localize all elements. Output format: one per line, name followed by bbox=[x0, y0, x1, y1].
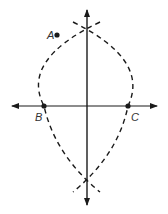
label-c: C bbox=[131, 111, 139, 123]
label-b: B bbox=[35, 111, 42, 123]
construction-diagram: A B C bbox=[0, 0, 168, 214]
label-a: A bbox=[46, 29, 54, 41]
point-c bbox=[125, 103, 130, 108]
point-b bbox=[41, 103, 46, 108]
point-a bbox=[54, 32, 59, 37]
left-arc bbox=[38, 22, 100, 192]
right-arc bbox=[73, 22, 133, 192]
